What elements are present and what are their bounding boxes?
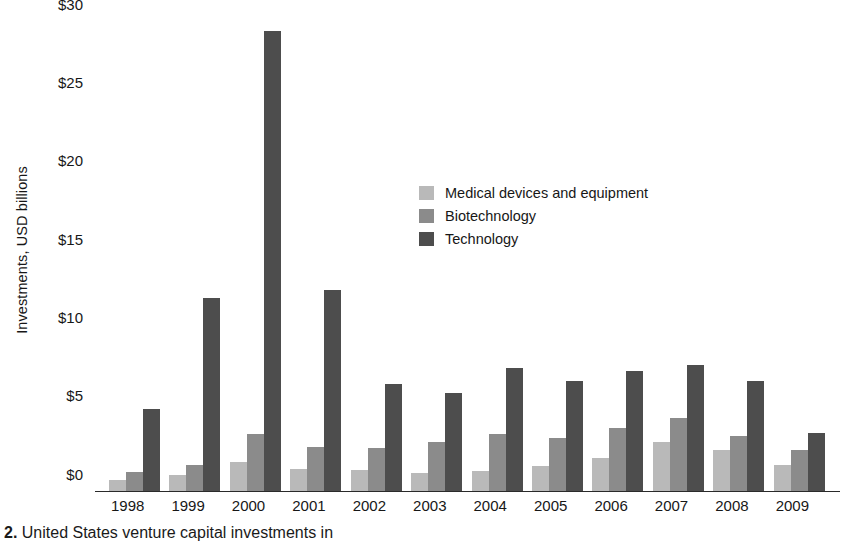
bar: [713, 450, 730, 491]
bar: [592, 458, 609, 491]
y-axis-tick: $10: [58, 308, 83, 325]
bar: [532, 466, 549, 490]
bar-group: [411, 21, 471, 491]
x-axis-tick: 2008: [713, 497, 773, 514]
bar-group: [592, 21, 652, 491]
bar-group: [169, 21, 229, 491]
bar: [143, 409, 160, 490]
bar: [791, 450, 808, 491]
x-axis-tick: 2004: [472, 497, 532, 514]
bar: [169, 475, 186, 491]
legend-item-label: Medical devices and equipment: [445, 185, 648, 201]
bar-group: [290, 21, 350, 491]
bar: [609, 428, 626, 491]
x-axis-tick: 2005: [532, 497, 592, 514]
legend-item-label: Technology: [445, 231, 518, 247]
chart-legend: Medical devices and equipmentBiotechnolo…: [419, 181, 648, 250]
bar: [247, 434, 264, 490]
caption-text: United States venture capital investment…: [22, 524, 333, 541]
bar: [670, 418, 687, 490]
x-axis-tick: 1999: [169, 497, 229, 514]
bar: [566, 381, 583, 491]
bar: [489, 434, 506, 490]
chart-figure: Investments, USD billions $30$25$20$15$1…: [0, 0, 849, 541]
legend-swatch-icon: [419, 209, 434, 223]
x-axis-tick: 2001: [290, 497, 350, 514]
bar: [428, 442, 445, 491]
legend-swatch-icon: [419, 186, 434, 200]
x-axis-tick: 2006: [592, 497, 652, 514]
bar: [126, 472, 143, 491]
x-axis-tick: 1998: [109, 497, 169, 514]
bar: [747, 381, 764, 491]
bar: [730, 436, 747, 491]
bar-group: [532, 21, 592, 491]
legend-item: Biotechnology: [419, 204, 648, 227]
bar-group: [774, 21, 834, 491]
bar: [109, 480, 126, 491]
bar-group: [472, 21, 532, 491]
bar: [230, 462, 247, 490]
bar-group: [230, 21, 290, 491]
bar: [290, 469, 307, 491]
bar: [264, 31, 281, 490]
bar: [186, 465, 203, 490]
bar-group-container: [95, 21, 840, 491]
bar: [351, 470, 368, 490]
bar: [687, 365, 704, 490]
bar: [549, 438, 566, 490]
plot-area: $30$25$20$15$10$5$0: [95, 10, 840, 492]
y-axis-tick: $0: [66, 465, 83, 482]
bar-group: [713, 21, 773, 491]
x-axis-baseline: [95, 491, 840, 493]
x-axis-tick: 2007: [653, 497, 713, 514]
bar-group: [109, 21, 169, 491]
legend-item: Medical devices and equipment: [419, 181, 648, 204]
bar: [506, 368, 523, 490]
legend-item-label: Biotechnology: [445, 208, 536, 224]
bar-group: [653, 21, 713, 491]
y-axis-tick: $30: [58, 0, 83, 12]
x-axis-tick: 2000: [230, 497, 290, 514]
bar: [808, 433, 825, 491]
legend-swatch-icon: [419, 232, 434, 246]
x-axis-tick: 2002: [351, 497, 411, 514]
figure-caption: 2. United States venture capital investm…: [4, 524, 849, 541]
x-axis-tick: 2003: [411, 497, 471, 514]
y-axis-tick: $15: [58, 230, 83, 247]
y-axis-tick: $25: [58, 73, 83, 90]
bar: [774, 465, 791, 490]
x-axis-tick: 2009: [774, 497, 834, 514]
bar: [368, 448, 385, 490]
bar: [411, 473, 428, 490]
y-axis-tick: $5: [66, 387, 83, 404]
y-axis-tick: $20: [58, 152, 83, 169]
bar: [324, 290, 341, 491]
bar: [653, 442, 670, 491]
bar-group: [351, 21, 411, 491]
legend-item: Technology: [419, 227, 648, 250]
bar: [472, 471, 489, 491]
x-axis-tick-container: 1998199920002001200220032004200520062007…: [95, 497, 840, 514]
bar: [445, 393, 462, 490]
caption-number: 2.: [4, 524, 17, 541]
bar: [203, 298, 220, 491]
y-axis-label: Investments, USD billions: [14, 150, 30, 350]
bar: [385, 384, 402, 491]
bar: [626, 371, 643, 490]
bar: [307, 447, 324, 491]
